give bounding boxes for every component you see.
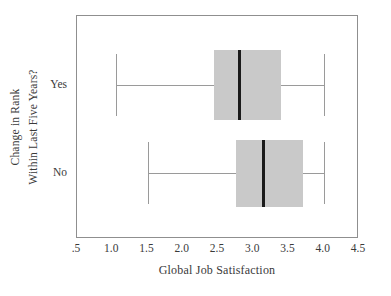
x-tick-label: 3.0 xyxy=(245,242,259,254)
whisker-low-line xyxy=(148,173,236,174)
x-axis-tick-labels: .51.01.52.02.53.03.54.04.5 xyxy=(76,242,358,258)
box-plot-no xyxy=(77,16,357,237)
x-axis-title: Global Job Satisfaction xyxy=(76,263,358,278)
x-tick-label: 2.5 xyxy=(210,242,224,254)
x-tick-label: 1.5 xyxy=(139,242,153,254)
x-tick-label: 2.0 xyxy=(175,242,189,254)
plot-frame xyxy=(76,15,358,238)
y-tick-label-no: No xyxy=(53,166,76,178)
y-axis-title-line-2: Within Last Five Years? xyxy=(27,69,39,184)
iqr-box xyxy=(236,140,303,207)
whisker-high-cap xyxy=(324,142,325,204)
y-axis-title: Change in Rank Within Last Five Years? xyxy=(6,15,42,238)
y-tick-label-yes: Yes xyxy=(50,78,76,90)
x-tick-label: 3.5 xyxy=(280,242,294,254)
y-axis-title-line-1: Change in Rank xyxy=(9,88,21,165)
x-tick-label: 4.0 xyxy=(316,242,330,254)
whisker-low-cap xyxy=(148,142,149,204)
median-line xyxy=(262,140,265,207)
whisker-high-line xyxy=(303,173,324,174)
x-tick-label: .5 xyxy=(72,242,81,254)
box-plot-chart: Change in Rank Within Last Five Years? Y… xyxy=(0,0,391,296)
x-tick-label: 1.0 xyxy=(104,242,118,254)
plot-area xyxy=(77,16,357,237)
x-tick-label: 4.5 xyxy=(351,242,365,254)
